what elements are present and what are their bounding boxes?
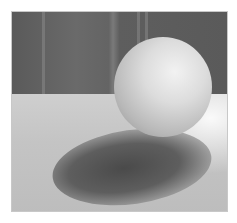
sphere	[114, 37, 212, 137]
photograph	[11, 11, 228, 212]
wall-stripe	[42, 12, 45, 94]
